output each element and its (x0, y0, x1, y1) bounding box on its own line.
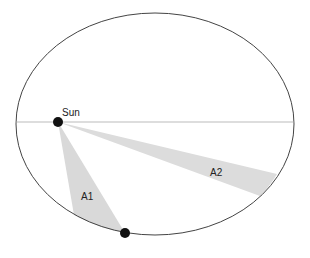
planet-dot (120, 228, 130, 238)
sun-dot (53, 117, 63, 127)
area1-label: A1 (81, 191, 94, 202)
orbit-diagram: Sun A1 A2 (0, 0, 310, 258)
sun-label: Sun (62, 107, 80, 118)
area2-label: A2 (210, 167, 223, 178)
